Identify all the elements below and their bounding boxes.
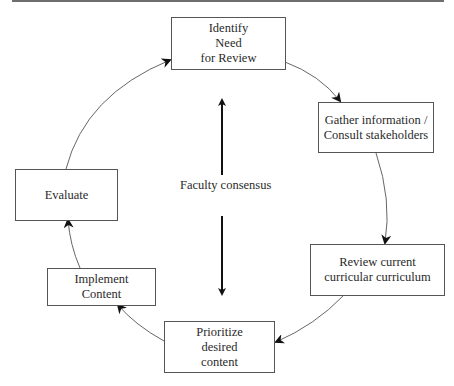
node-line: Review current bbox=[339, 255, 416, 270]
node-line: Evaluate bbox=[45, 188, 89, 203]
node-line: Identify bbox=[209, 21, 249, 36]
node-identify-need: Identify Need for Review bbox=[171, 17, 286, 70]
node-prioritize-content: Prioritize desired content bbox=[164, 321, 275, 373]
node-evaluate: Evaluate bbox=[15, 169, 118, 221]
node-line: Need bbox=[215, 36, 241, 51]
node-line: curricular curriculum bbox=[324, 270, 431, 285]
edge-identify-gather bbox=[285, 62, 340, 101]
node-line: Consult stakeholders bbox=[324, 128, 429, 143]
edge-implement-evaluate bbox=[68, 220, 80, 268]
edge-gather-review bbox=[376, 153, 387, 243]
node-line: Gather information / bbox=[325, 113, 428, 128]
node-line: content bbox=[201, 355, 238, 370]
node-gather-information: Gather information / Consult stakeholder… bbox=[318, 102, 434, 153]
node-review-curriculum: Review current curricular curriculum bbox=[310, 244, 445, 296]
node-line: for Review bbox=[201, 51, 257, 66]
node-line: Prioritize bbox=[196, 325, 243, 340]
node-line: Implement bbox=[74, 272, 128, 287]
edge-review-prioritize bbox=[276, 296, 343, 342]
edge-evaluate-identify bbox=[66, 60, 170, 169]
center-label-faculty-consensus: Faculty consensus bbox=[180, 178, 271, 193]
node-line: desired bbox=[201, 340, 237, 355]
edge-prioritize-implement bbox=[118, 305, 164, 341]
node-line: Content bbox=[82, 287, 122, 302]
node-implement-content: Implement Content bbox=[47, 268, 156, 306]
